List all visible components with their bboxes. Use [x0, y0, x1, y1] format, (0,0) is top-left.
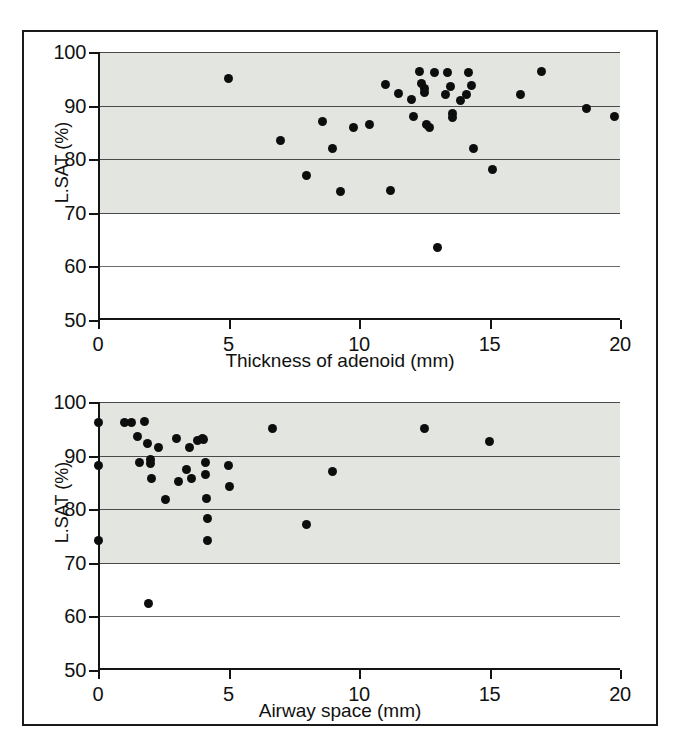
data-point: [430, 68, 439, 77]
y-tick: [89, 509, 98, 511]
gridline-60-top: [98, 266, 620, 267]
y-tick: [89, 159, 98, 161]
data-point: [135, 458, 144, 467]
plot-wrap-top: 5060708090100 05101520: [98, 52, 620, 320]
x-tick: [98, 670, 100, 679]
gridline-90-top: [98, 106, 620, 107]
y-tick: [89, 616, 98, 618]
y-tick-label: 60: [64, 605, 86, 628]
data-point: [420, 88, 429, 97]
x-axis-label-top: Thickness of adenoid (mm): [24, 350, 656, 372]
x-tick: [620, 320, 622, 329]
y-tick: [89, 670, 98, 672]
y-axis-top: [98, 52, 100, 320]
x-tick: [620, 670, 622, 679]
chart-panel-bottom: 5060708090100 05101520 L.SAT (%) Airway …: [24, 372, 656, 724]
plot-area-top: [98, 52, 620, 320]
data-point: [94, 536, 103, 545]
y-axis-label-bottom: L.SAT (%): [52, 443, 73, 563]
data-point: [144, 599, 153, 608]
x-tick: [229, 320, 231, 329]
gridline-90-bottom: [98, 456, 620, 457]
gridline-100-top: [98, 52, 620, 53]
y-tick: [89, 402, 98, 404]
y-tick: [89, 563, 98, 565]
chart-panel-top: 5060708090100 05101520 L.SAT (%) Thickne…: [24, 32, 656, 372]
data-point: [182, 465, 191, 474]
data-point: [146, 459, 155, 468]
data-point: [425, 123, 434, 132]
data-point: [420, 424, 429, 433]
data-point: [201, 458, 210, 467]
x-tick: [490, 320, 492, 329]
gridline-70-bottom: [98, 563, 620, 564]
data-point: [582, 104, 591, 113]
y-tick-label: 50: [64, 309, 86, 332]
data-point: [488, 165, 497, 174]
x-tick: [229, 670, 231, 679]
y-tick: [89, 106, 98, 108]
figure-frame: 5060708090100 05101520 L.SAT (%) Thickne…: [22, 30, 658, 726]
data-point: [394, 89, 403, 98]
y-tick-label: 60: [64, 255, 86, 278]
y-axis-label-top: L.SAT (%): [52, 103, 73, 223]
gridline-60-bottom: [98, 616, 620, 617]
y-tick: [89, 456, 98, 458]
y-tick: [89, 213, 98, 215]
x-tick: [359, 320, 361, 329]
gridline-100-bottom: [98, 402, 620, 403]
shaded-band-top: [98, 52, 620, 213]
data-point: [407, 95, 416, 104]
data-point: [202, 494, 211, 503]
gridline-80-bottom: [98, 509, 620, 510]
gridline-80-top: [98, 159, 620, 160]
data-point: [381, 80, 390, 89]
data-point: [94, 461, 103, 470]
gridline-70-top: [98, 213, 620, 214]
data-point: [433, 243, 442, 252]
data-point: [203, 536, 212, 545]
data-point: [133, 432, 142, 441]
data-point: [302, 520, 311, 529]
data-point: [467, 81, 476, 90]
x-tick: [98, 320, 100, 329]
y-tick: [89, 52, 98, 54]
data-point: [462, 90, 471, 99]
data-point: [154, 443, 163, 452]
data-point: [415, 67, 424, 76]
y-tick-label: 50: [64, 659, 86, 682]
data-point: [224, 461, 233, 470]
x-axis-label-bottom: Airway space (mm): [24, 700, 656, 722]
plot-wrap-bottom: 5060708090100 05101520: [98, 402, 620, 670]
data-point: [386, 186, 395, 195]
data-point: [185, 443, 194, 452]
x-tick: [359, 670, 361, 679]
x-tick: [490, 670, 492, 679]
data-point: [94, 418, 103, 427]
data-point: [201, 470, 210, 479]
data-point: [464, 68, 473, 77]
y-tick-label: 100: [54, 391, 86, 414]
y-tick: [89, 266, 98, 268]
data-point: [172, 434, 181, 443]
data-point: [349, 123, 358, 132]
y-tick-label: 100: [54, 41, 86, 64]
data-point: [441, 90, 450, 99]
y-tick: [89, 320, 98, 322]
data-point: [147, 474, 156, 483]
data-point: [365, 120, 374, 129]
